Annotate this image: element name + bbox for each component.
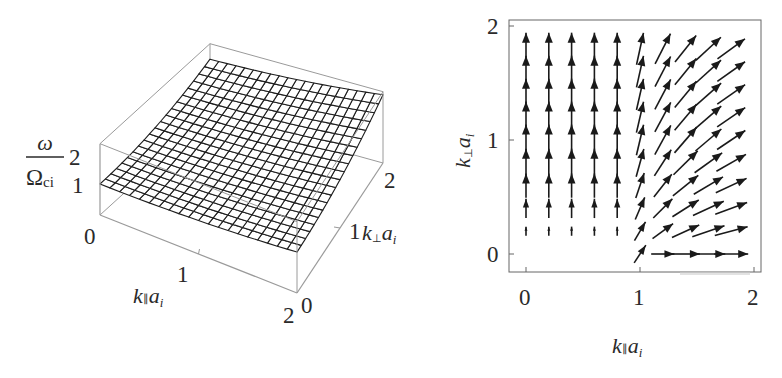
right-x-tick-1: 1 (633, 285, 645, 310)
right-y-axis-label: k⊥ai (450, 133, 477, 168)
right-x-tick-2: 2 (747, 285, 759, 310)
right-y-tick-0: 0 (487, 242, 499, 267)
scan-artifact (680, 272, 750, 275)
svg-text:Ωci: Ωci (26, 165, 54, 190)
right-y-tick-2: 2 (487, 14, 499, 39)
right-y-tick-1: 1 (487, 128, 499, 153)
z-tick-0: 0 (84, 224, 96, 249)
y-axis-label: k⊥ai (362, 220, 397, 247)
y-tick-2: 2 (384, 168, 396, 193)
right-x-axis-label: k∥ai (612, 333, 643, 360)
figure: ω Ωci 2 1 0 1 2 k∥ai 0 1 2 k⊥ai 2 1 0 0 … (0, 0, 782, 378)
vector-arrows (522, 33, 748, 263)
z-tick-1: 1 (72, 173, 84, 198)
right-x-tick-0: 0 (519, 285, 531, 310)
vector-field-plot: 2 1 0 0 1 2 k∥ai k⊥ai (450, 14, 761, 360)
z-tick-2: 2 (69, 145, 81, 170)
x-tick-1: 1 (177, 262, 189, 287)
x-axis-label: k∥ai (133, 283, 164, 310)
svg-text:ω: ω (37, 130, 53, 155)
y-tick-1: 1 (349, 219, 361, 244)
surface-plot-3d: ω Ωci 2 1 0 1 2 k∥ai 0 1 2 k⊥ai (26, 44, 397, 328)
y-tick-0: 0 (301, 293, 313, 318)
x-tick-2: 2 (283, 303, 295, 328)
z-axis-label: ω Ωci (26, 130, 64, 190)
